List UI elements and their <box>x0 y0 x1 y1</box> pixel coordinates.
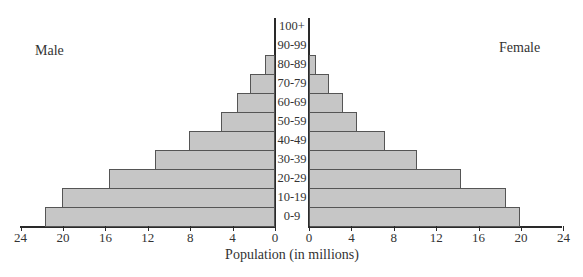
female-tick-label: 12 <box>430 230 443 246</box>
age-group-label: 20-29 <box>275 171 309 186</box>
age-group-label: 10-19 <box>275 190 309 205</box>
female-tick-label: 24 <box>557 230 570 246</box>
male-bar-40-49 <box>189 131 275 151</box>
female-bar-40-49 <box>309 131 385 151</box>
male-bar-60-69 <box>237 93 275 113</box>
age-group-label: 100+ <box>275 19 309 34</box>
female-bar-0-9 <box>309 207 520 227</box>
female-bar-20-29 <box>309 169 461 189</box>
age-group-label: 70-79 <box>275 76 309 91</box>
age-group-label: 80-89 <box>275 57 309 72</box>
male-tick-label: 8 <box>187 230 194 246</box>
male-label: Male <box>35 43 64 59</box>
male-bar-80-89 <box>265 55 275 75</box>
female-tick-label: 4 <box>348 230 355 246</box>
female-bar-50-59 <box>309 112 357 132</box>
female-tick-label: 0 <box>306 230 313 246</box>
male-bar-70-79 <box>250 74 275 94</box>
male-tick-label: 4 <box>229 230 236 246</box>
male-tick-label: 24 <box>14 230 27 246</box>
male-tick-label: 20 <box>57 230 70 246</box>
age-group-label: 40-49 <box>275 133 309 148</box>
male-tick-label: 16 <box>99 230 112 246</box>
age-group-label: 50-59 <box>275 114 309 129</box>
male-bar-20-29 <box>109 169 275 189</box>
age-group-label: 60-69 <box>275 95 309 110</box>
female-tick-label: 16 <box>472 230 485 246</box>
male-bar-0-9 <box>45 207 275 227</box>
age-group-label: 0-9 <box>275 209 309 224</box>
male-bar-50-59 <box>221 112 275 132</box>
female-bar-70-79 <box>309 74 329 94</box>
x-axis-title: Population (in millions) <box>225 247 359 263</box>
age-group-label: 90-99 <box>275 38 309 53</box>
male-bar-10-19 <box>62 188 275 208</box>
female-label: Female <box>499 40 540 56</box>
male-tick-label: 0 <box>272 230 279 246</box>
age-group-label: 30-39 <box>275 152 309 167</box>
female-bar-60-69 <box>309 93 343 113</box>
female-tick-label: 8 <box>391 230 398 246</box>
male-bar-30-39 <box>155 150 275 170</box>
female-bar-30-39 <box>309 150 417 170</box>
female-tick-label: 20 <box>515 230 528 246</box>
male-tick-label: 12 <box>141 230 154 246</box>
female-bar-10-19 <box>309 188 506 208</box>
female-bar-80-89 <box>309 55 316 75</box>
